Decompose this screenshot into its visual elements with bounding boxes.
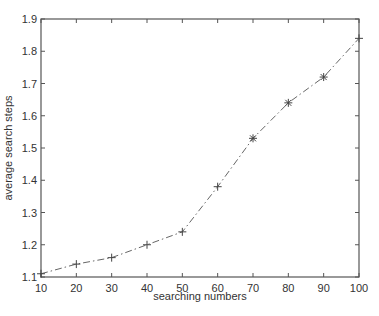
series-line xyxy=(41,38,359,273)
x-tick-label: 40 xyxy=(141,282,153,294)
data-point-marker xyxy=(249,134,257,142)
x-tick-label: 70 xyxy=(247,282,259,294)
data-point-marker xyxy=(214,183,222,191)
data-point-marker xyxy=(72,260,80,268)
y-tick-label: 1.7 xyxy=(22,78,37,90)
y-tick-label: 1.8 xyxy=(22,45,37,57)
plot-frame xyxy=(41,19,359,277)
data-point-marker xyxy=(320,73,328,81)
data-point-marker xyxy=(108,254,116,262)
x-tick-label: 10 xyxy=(35,282,47,294)
y-axis-label: average search steps xyxy=(2,95,14,201)
x-tick-label: 20 xyxy=(70,282,82,294)
x-tick-label: 80 xyxy=(282,282,294,294)
y-tick-label: 1.9 xyxy=(22,13,37,25)
plot-area-border xyxy=(41,19,359,277)
y-axis: 1.11.21.31.41.51.61.71.81.9 xyxy=(22,13,359,283)
x-tick-label: 30 xyxy=(106,282,118,294)
y-tick-label: 1.6 xyxy=(22,110,37,122)
line-chart: 1.11.21.31.41.51.61.71.81.9 102030405060… xyxy=(0,0,379,316)
x-axis-label: searching numbers xyxy=(153,290,247,302)
y-tick-label: 1.3 xyxy=(22,207,37,219)
y-tick-label: 1.2 xyxy=(22,239,37,251)
x-axis: 102030405060708090100 xyxy=(35,19,368,294)
data-point-marker xyxy=(143,241,151,249)
x-tick-label: 90 xyxy=(318,282,330,294)
x-tick-label: 100 xyxy=(350,282,368,294)
y-tick-label: 1.5 xyxy=(22,142,37,154)
y-tick-label: 1.4 xyxy=(22,174,37,186)
data-series xyxy=(37,34,363,277)
data-point-marker xyxy=(284,99,292,107)
